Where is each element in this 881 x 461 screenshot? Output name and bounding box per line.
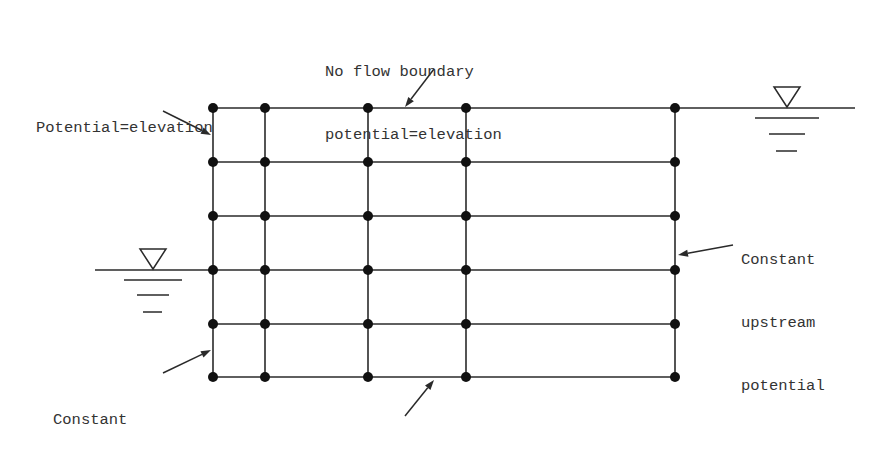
arrow-constant-upstream-icon	[678, 245, 733, 257]
downstream-water-level-icon	[124, 249, 182, 312]
grid-node	[363, 211, 373, 221]
label-no-flow-boundary-bottom: No flow boundary	[326, 421, 475, 461]
water-triangle-icon	[774, 87, 800, 107]
grid-node	[670, 157, 680, 167]
label-line: Constant	[53, 410, 146, 431]
label-line: Potential=elevation	[36, 118, 213, 139]
label-line: potential=elevation	[325, 125, 502, 146]
label-constant-downstream-potential: Constant downstream potential	[53, 368, 146, 461]
grid-node	[461, 211, 471, 221]
arrow-no-flow-bottom-icon	[405, 380, 434, 416]
grid-node	[363, 265, 373, 275]
grid-node	[363, 319, 373, 329]
grid-node	[260, 211, 270, 221]
label-potential-elevation: Potential=elevation	[36, 76, 213, 160]
grid-node	[260, 157, 270, 167]
grid-node	[208, 319, 218, 329]
grid-node	[461, 265, 471, 275]
label-line: Constant	[741, 250, 825, 271]
grid-node	[670, 319, 680, 329]
label-no-flow-boundary-top: No flow boundary potential=elevation	[325, 20, 502, 167]
grid-node	[670, 103, 680, 113]
grid-node	[260, 372, 270, 382]
label-constant-upstream-potential: Constant upstream potential	[741, 208, 825, 418]
grid-node	[260, 103, 270, 113]
grid-node	[363, 372, 373, 382]
label-line: upstream	[741, 313, 825, 334]
grid-node	[461, 319, 471, 329]
upstream-water-level-icon	[755, 87, 819, 151]
grid-node	[260, 319, 270, 329]
grid-node	[208, 372, 218, 382]
grid-node	[208, 211, 218, 221]
grid-node	[461, 372, 471, 382]
water-triangle-icon	[140, 249, 166, 269]
grid-node	[670, 211, 680, 221]
label-line: No flow boundary	[325, 62, 502, 83]
grid-node	[208, 265, 218, 275]
grid-node	[260, 265, 270, 275]
grid-node	[670, 265, 680, 275]
arrow-constant-downstream-icon	[163, 350, 211, 373]
label-line: potential	[741, 376, 825, 397]
grid-node	[670, 372, 680, 382]
